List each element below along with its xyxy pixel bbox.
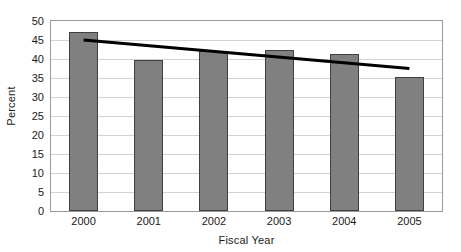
y-axis-tick-label: 35 [32, 73, 44, 84]
x-axis-tick-label: 2003 [267, 215, 291, 228]
y-axis-title-label: Percent [5, 86, 17, 125]
bar-2005 [395, 77, 424, 211]
y-axis-tick-label: 50 [32, 16, 44, 27]
bar-2004 [330, 54, 359, 211]
x-axis-tick-label: 2004 [332, 215, 356, 228]
y-axis-tick-label: 20 [32, 130, 44, 141]
bar-2000 [69, 32, 98, 211]
x-axis-tick-label: 2005 [397, 215, 421, 228]
y-axis-title: Percent [0, 0, 22, 212]
y-axis-tick-label: 10 [32, 168, 44, 179]
bar-2002 [199, 51, 228, 211]
y-axis-tick-label: 0 [38, 206, 44, 217]
y-axis-tick-label: 15 [32, 149, 44, 160]
y-axis-tick-label: 25 [32, 111, 44, 122]
x-axis-tick-label: 2000 [71, 215, 95, 228]
x-axis-tick-label: 2001 [137, 215, 161, 228]
bar-2001 [134, 60, 163, 211]
x-axis-tick-labels: 200020012002200320042005 [50, 215, 443, 231]
bars-layer [51, 21, 442, 211]
y-axis-tick-labels: 05101520253035404550 [22, 20, 48, 212]
x-axis-tick-label: 2002 [202, 215, 226, 228]
y-axis-tick-label: 40 [32, 54, 44, 65]
bar-2003 [265, 50, 294, 211]
gridline [51, 211, 442, 212]
bar-chart: Percent 05101520253035404550 20002001200… [0, 0, 461, 252]
y-axis-tick-label: 30 [32, 92, 44, 103]
plot-area [50, 20, 443, 212]
y-axis-tick-label: 5 [38, 187, 44, 198]
y-axis-tick-label: 45 [32, 35, 44, 46]
x-axis-title: Fiscal Year [50, 234, 443, 246]
x-axis-title-label: Fiscal Year [218, 234, 274, 246]
